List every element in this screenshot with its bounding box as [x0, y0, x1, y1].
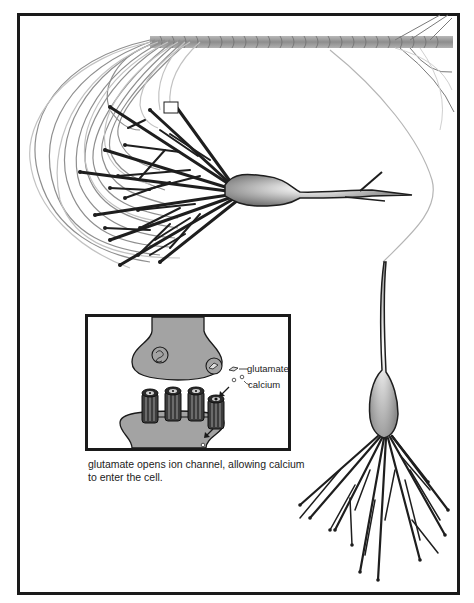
glutamate-molecule-icon: [229, 367, 238, 371]
lower-neuron: [298, 262, 450, 582]
fiber-bundle: [150, 15, 454, 130]
projection-fiber: [330, 50, 433, 262]
calcium-ion: [201, 443, 205, 447]
figure-caption: glutamate opens ion channel, allowing ca…: [88, 458, 328, 484]
neuron-diagram: glutamate calcium glutamate opens ion ch…: [0, 0, 474, 603]
synapse-inset: glutamate calcium: [85, 314, 291, 451]
ion-channel: [142, 389, 158, 423]
neuron-illustration: [0, 0, 474, 603]
calcium-label: calcium: [248, 380, 280, 390]
upper-neuron-soma: [225, 172, 412, 206]
glutamate-label: glutamate: [247, 364, 289, 374]
calcium-ion: [232, 378, 236, 382]
vesicle: [152, 347, 168, 363]
calcium-ion: [240, 375, 244, 379]
ion-channel: [165, 387, 181, 421]
ion-channel-open: [208, 395, 224, 429]
vesicle: [206, 358, 222, 374]
ion-channel: [188, 387, 204, 421]
caption-line-1: glutamate opens ion channel, allowing ca…: [88, 458, 328, 471]
marker-square: [164, 102, 178, 113]
caption-line-2: to enter the cell.: [88, 471, 328, 484]
